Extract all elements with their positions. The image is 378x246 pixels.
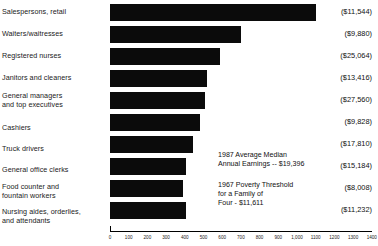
bar-cashiers [110, 114, 200, 131]
table-row [110, 136, 193, 153]
category-label: Waiters/waitresses [2, 30, 104, 39]
x-tick-label: 200 [144, 235, 152, 240]
bar-food-counter-workers [110, 180, 183, 197]
category-label: Nursing aides, orderlies, and attendants [2, 208, 104, 225]
category-label: Registered nurses [2, 52, 104, 61]
bar-general-office-clerks [110, 158, 186, 175]
value-label: ($8,008) [316, 183, 372, 192]
x-tick-label: 1100 [311, 235, 321, 240]
category-label: Truck drivers [2, 145, 104, 154]
value-label: ($13,416) [316, 73, 372, 82]
table-row [110, 70, 207, 87]
table-row [110, 158, 186, 175]
bar-general-managers [110, 92, 205, 109]
x-tick-label: 900 [274, 235, 282, 240]
x-tick-label: 600 [218, 235, 226, 240]
table-row [110, 114, 200, 131]
x-tick-label: 1400 [367, 235, 377, 240]
x-tick-label: 800 [256, 235, 264, 240]
bar-registered-nurses [110, 48, 220, 65]
value-label: ($27,560) [316, 95, 372, 104]
value-label: ($11,544) [316, 7, 372, 16]
x-tick-label: 0 [109, 235, 112, 240]
table-row [110, 48, 220, 65]
category-label: General office clerks [2, 166, 104, 175]
bar-waiters-waitresses [110, 26, 241, 43]
table-row [110, 202, 186, 219]
bar-salespersons-retail [110, 4, 316, 21]
table-row [110, 92, 205, 109]
value-label: ($9,828) [316, 117, 372, 126]
bar-nursing-aides [110, 202, 186, 219]
x-tick-label: 300 [162, 235, 170, 240]
x-tick-label: 1300 [348, 235, 358, 240]
category-label: Salespersons, retail [2, 8, 104, 17]
x-tick-label: 1,000 [291, 235, 303, 240]
category-label: Food counter and fountain workers [2, 183, 104, 200]
value-label: ($11,232) [316, 205, 372, 214]
x-tick-label: 700 [237, 235, 245, 240]
x-axis-line [110, 231, 372, 232]
value-label: ($25,064) [316, 51, 372, 60]
category-axis-labels: Salespersons, retail Waiters/waitresses … [0, 0, 108, 228]
value-label: ($15,184) [316, 161, 372, 170]
table-row [110, 180, 183, 197]
x-tick-label: 100 [125, 235, 133, 240]
value-label: ($17,810) [316, 139, 372, 148]
x-tick-label: 400 [181, 235, 189, 240]
value-label: ($9,880) [316, 29, 372, 38]
annotation-average-median-earnings: 1987 Average Median Annual Earnings -- $… [218, 151, 304, 169]
bar-janitors-and-cleaners [110, 70, 207, 87]
category-label: General managers and top executives [2, 92, 104, 109]
x-axis-ticks: 0 100 200 300 400 500 600 700 800 900 1,… [110, 233, 372, 245]
table-row [110, 4, 316, 21]
table-row [110, 26, 241, 43]
x-tick-label: 1200 [329, 235, 339, 240]
annotation-poverty-threshold: 1967 Poverty Threshold for a Family of F… [218, 181, 293, 209]
bar-chart: Salespersons, retail Waiters/waitresses … [0, 0, 378, 246]
category-label: Janitors and cleaners [2, 74, 104, 83]
category-label: Cashiers [2, 124, 104, 133]
x-tick-label: 500 [200, 235, 208, 240]
bar-truck-drivers [110, 136, 193, 153]
